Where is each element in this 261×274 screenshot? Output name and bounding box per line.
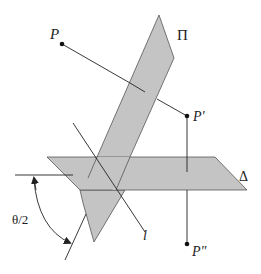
label-p: P	[49, 26, 59, 42]
label-angle: θ/2	[12, 212, 28, 227]
point-p-prime	[185, 114, 190, 119]
point-p-double-prime	[185, 242, 190, 247]
label-plane-pi: Π	[177, 27, 188, 43]
angle-arc	[34, 180, 70, 243]
label-plane-delta: Δ	[239, 169, 248, 184]
point-p	[60, 42, 65, 47]
label-line-l: l	[143, 228, 147, 243]
plane-pi-lower	[80, 190, 125, 242]
label-p-double-prime: P"	[191, 244, 207, 259]
angle-ray-oblique	[65, 214, 86, 260]
plane-delta	[47, 157, 247, 190]
segment-p-to-pprime	[62, 44, 130, 83]
reflection-diagram: P P' P" Π Δ l θ/2	[0, 0, 261, 274]
label-p-prime: P'	[192, 109, 206, 124]
